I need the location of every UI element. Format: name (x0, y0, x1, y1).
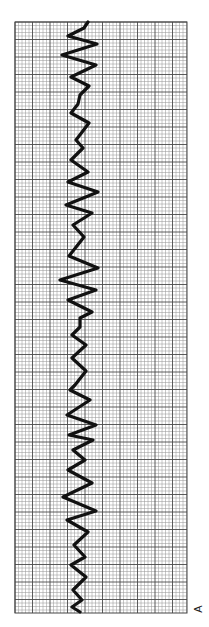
ecg-strip (0, 0, 209, 627)
panel-label: A (192, 603, 204, 615)
